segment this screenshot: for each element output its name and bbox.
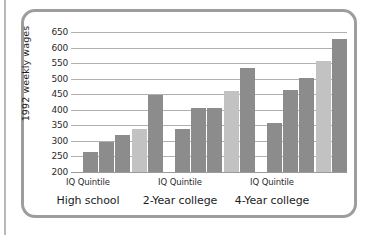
bar-high-school-q3 (115, 135, 130, 172)
bar-2-year-college-q1 (175, 129, 190, 172)
x-tick-label-group-2: IQ Quintile (217, 177, 327, 187)
gridline-600 (71, 48, 347, 49)
bar-high-school-q2 (99, 142, 114, 172)
y-tick-450: 450 (26, 90, 68, 99)
y-tick-500: 500 (26, 75, 68, 84)
gridline-650 (71, 32, 347, 33)
bar-high-school-q4 (132, 129, 147, 172)
bar-4-year-college-q2 (283, 90, 298, 172)
bar-4-year-college-q5 (332, 39, 347, 172)
y-tick-350: 350 (26, 121, 68, 130)
bar-4-year-college-q1 (267, 123, 282, 172)
bar-2-year-college-q4 (224, 91, 239, 172)
bar-2-year-college-q3 (207, 108, 222, 172)
x-group-label-4-year-college: 4-Year college (207, 194, 337, 207)
bar-high-school-q5 (148, 95, 163, 172)
y-tick-600: 600 (26, 44, 68, 53)
y-tick-300: 300 (26, 137, 68, 146)
bar-high-school-q1 (83, 152, 98, 172)
y-tick-650: 650 (26, 28, 68, 37)
bar-chart: 1992 weekly wages 650 600 550 500 450 40… (0, 0, 377, 235)
y-tick-550: 550 (26, 59, 68, 68)
bar-4-year-college-q3 (299, 78, 314, 172)
y-tick-250: 250 (26, 152, 68, 161)
bar-2-year-college-q2 (191, 108, 206, 172)
y-axis-tick-labels: 650 600 550 500 450 400 350 300 250 200 (22, 32, 68, 172)
y-tick-200: 200 (26, 168, 68, 177)
gridline-200-baseline (71, 172, 347, 173)
bar-4-year-college-q4 (316, 61, 331, 172)
bar-2-year-college-q5 (240, 68, 255, 172)
gridline-550 (71, 63, 347, 64)
plot-region (71, 32, 347, 172)
y-tick-400: 400 (26, 106, 68, 115)
